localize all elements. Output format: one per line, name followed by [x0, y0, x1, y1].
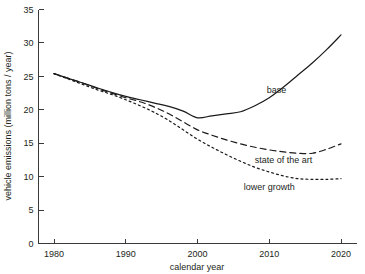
- series-line-state-of-the-art: [54, 74, 341, 154]
- x-tick-label: 1980: [44, 249, 64, 259]
- y-tick-label: 25: [23, 72, 33, 82]
- x-axis-title: calendar year: [170, 262, 225, 272]
- x-tick-label: 2000: [187, 249, 207, 259]
- y-tick-label: 10: [23, 172, 33, 182]
- x-tick-label: 2020: [331, 249, 351, 259]
- x-axis-ticks: 19801990200020102020: [44, 239, 351, 259]
- series-label-base: base: [267, 85, 287, 95]
- y-tick-label: 0: [28, 239, 33, 249]
- emissions-line-chart: 05101520253035 19801990200020102020 base…: [0, 0, 365, 274]
- series-label-state-of-the-art: state of the art: [255, 155, 313, 165]
- y-axis-title: vehicle emissions (million tons / year): [3, 51, 13, 200]
- series-line-base: [54, 35, 341, 118]
- x-tick-label: 2010: [259, 249, 279, 259]
- series-label-lower-growth: lower growth: [244, 182, 295, 192]
- y-tick-label: 15: [23, 138, 33, 148]
- y-tick-label: 30: [23, 38, 33, 48]
- y-axis-ticks: 05101520253035: [23, 5, 43, 249]
- x-tick-label: 1990: [116, 249, 136, 259]
- y-tick-label: 20: [23, 105, 33, 115]
- chart-container: 05101520253035 19801990200020102020 base…: [0, 0, 365, 274]
- y-tick-label: 35: [23, 5, 33, 15]
- y-tick-label: 5: [28, 205, 33, 215]
- series-annotations: basestate of the artlower growth: [244, 85, 313, 192]
